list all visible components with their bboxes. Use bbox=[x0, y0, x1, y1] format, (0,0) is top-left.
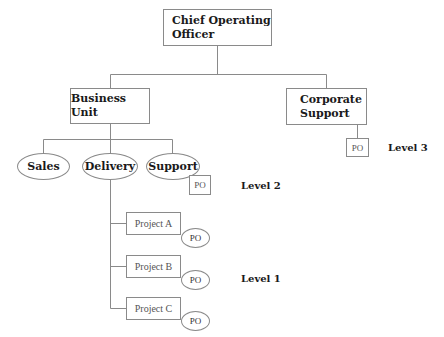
project-b-po-ellipse: PO bbox=[181, 270, 210, 290]
po-label: PO bbox=[190, 233, 202, 243]
corporate-support-line2: Support bbox=[300, 107, 350, 121]
org-chart-diagram: Chief Operating Officer Business Unit Co… bbox=[0, 0, 444, 337]
project-a-label: Project A bbox=[135, 218, 173, 229]
project-b-label: Project B bbox=[135, 261, 173, 272]
coo-label-line2: Officer bbox=[172, 28, 214, 42]
delivery-ellipse: Delivery bbox=[82, 153, 138, 180]
sales-label: Sales bbox=[27, 160, 59, 173]
support-label: Support bbox=[148, 160, 198, 173]
project-c-po-ellipse: PO bbox=[181, 311, 210, 331]
support-po-box: PO bbox=[189, 175, 211, 195]
project-a-po-ellipse: PO bbox=[181, 228, 210, 248]
project-a-box: Project A bbox=[126, 212, 181, 235]
business-unit-box: Business Unit bbox=[70, 88, 150, 124]
corporate-support-line1: Corporate bbox=[300, 93, 362, 107]
level-1-label: Level 1 bbox=[241, 273, 281, 284]
level-3-label: Level 3 bbox=[388, 142, 428, 153]
corporate-support-po-box: PO bbox=[346, 138, 369, 157]
delivery-label: Delivery bbox=[85, 160, 135, 173]
po-label: PO bbox=[352, 143, 364, 153]
project-b-box: Project B bbox=[126, 255, 181, 278]
business-unit-label: Business Unit bbox=[71, 92, 149, 120]
level-2-label: Level 2 bbox=[241, 180, 281, 191]
project-c-box: Project C bbox=[126, 297, 181, 320]
po-label: PO bbox=[190, 275, 202, 285]
project-c-label: Project C bbox=[135, 303, 173, 314]
corporate-support-box: Corporate Support bbox=[286, 88, 367, 125]
po-label: PO bbox=[194, 180, 206, 190]
sales-ellipse: Sales bbox=[17, 153, 70, 180]
coo-label-line1: Chief Operating bbox=[172, 14, 271, 28]
coo-box: Chief Operating Officer bbox=[163, 9, 272, 46]
po-label: PO bbox=[190, 316, 202, 326]
